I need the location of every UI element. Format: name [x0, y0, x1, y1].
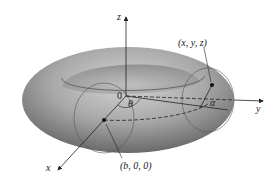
alpha-label: α: [210, 97, 216, 108]
point-b: [102, 118, 106, 122]
z-axis-label: z: [116, 11, 121, 22]
origin-label: 0: [117, 90, 122, 101]
y-axis: [234, 100, 263, 101]
theta-label: θ: [128, 98, 133, 109]
point-xyz: [210, 83, 214, 87]
torus-diagram: z y x 0 θ α (b, 0, 0) (x, y, z): [0, 0, 280, 181]
y-axis-label: y: [255, 103, 261, 114]
point-xyz-label: (x, y, z): [178, 37, 208, 49]
point-b-label: (b, 0, 0): [120, 160, 152, 172]
x-axis-label: x: [45, 162, 51, 173]
